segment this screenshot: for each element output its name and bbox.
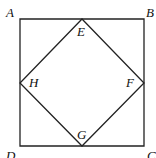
label-d: D (5, 148, 16, 158)
label-h: H (28, 75, 39, 90)
label-b: B (146, 5, 154, 20)
label-f: F (125, 75, 135, 90)
label-c: C (147, 148, 156, 158)
label-e: E (76, 24, 85, 39)
geometry-diagram: A B C D E F G H (0, 0, 156, 158)
label-g: G (77, 127, 87, 142)
label-a: A (5, 5, 14, 20)
